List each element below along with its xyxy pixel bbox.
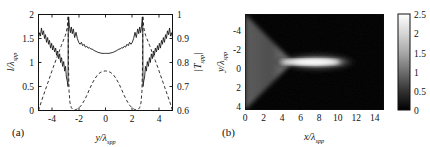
panel-b-svg: -4 -2 0 2 4 0 2 4 6 8 10 12 14 y/λspp x	[215, 0, 430, 147]
ytick-label: -4	[233, 26, 241, 36]
panel-a-svg: 2 1.5 1 0.5 0 1 0.9 0.8 0.7 0.6 -4	[0, 0, 215, 147]
ytick-left-label: 2	[29, 10, 34, 20]
colorbar-tick-label: 2	[414, 29, 419, 39]
panel-b-yaxis: -4 -2 0 2 4	[233, 26, 241, 113]
svg-text:y/λspp: y/λspp	[215, 52, 228, 73]
colorbar-tick-label: 0.5	[414, 87, 426, 97]
xtick-label: 8	[317, 113, 322, 123]
xtick-label: -4	[48, 114, 56, 124]
ylabel-right-tail: |	[192, 52, 203, 55]
panel-a-xlabel: y/λspp	[94, 132, 115, 145]
colorbar-gradient	[398, 14, 410, 110]
ytick-label: 0	[236, 64, 241, 74]
ytick-left-label: 0.5	[22, 82, 34, 92]
svg-text:l/λspp: l/λspp	[5, 53, 18, 72]
ytick-label: 4	[236, 102, 241, 112]
panel-a-curves	[39, 16, 173, 111]
colorbar-tick-label: 2.5	[414, 10, 426, 20]
xtick-label: 10	[333, 113, 343, 123]
ytick-right-label: 0.7	[177, 82, 189, 92]
ytick-right-label: 0.6	[177, 106, 189, 116]
xtick-label: 4	[280, 113, 285, 123]
panel-b-xaxis: 0 2 4 6 8 10 12 14	[243, 113, 380, 123]
xtick-label: 12	[352, 113, 362, 123]
ytick-label: 2	[236, 83, 241, 93]
panel-a-ylabel-left-group: l/λspp	[5, 53, 18, 72]
panel-b-label: (b)	[222, 126, 235, 139]
panel-b-heatmap: -4 -2 0 2 4 0 2 4 6 8 10 12 14 y/λspp x	[215, 0, 430, 147]
ytick-right-label: 1	[177, 10, 182, 20]
panel-a-plot-frame	[39, 15, 173, 111]
xtick-label: 4	[157, 114, 162, 124]
xtick-label: 14	[370, 113, 380, 123]
xtick-label: 2	[261, 113, 266, 123]
ylabel-left-sub: spp	[11, 53, 18, 62]
ytick-left-label: 1.5	[22, 34, 34, 44]
ylabel-right-sub: spp	[198, 55, 205, 64]
xtick-label: 0	[103, 114, 108, 124]
panel-a-line-plot: 2 1.5 1 0.5 0 1 0.9 0.8 0.7 0.6 -4	[0, 0, 215, 147]
heatmap-noise-overlay	[245, 14, 384, 110]
panel-b-ylabel-text: y/λ	[215, 60, 226, 73]
panel-b-ylabel-group: y/λspp	[215, 52, 228, 73]
panel-b-ylabel-sub: spp	[221, 52, 228, 61]
colorbar-tick-label: 1.5	[414, 49, 426, 59]
transmission-dashed-curve	[39, 16, 173, 111]
ytick-left-label: 0	[29, 106, 34, 116]
panel-a-label: (a)	[12, 126, 25, 139]
ytick-left-label: 1	[29, 58, 34, 68]
xtick-label: 6	[298, 113, 303, 123]
xtick-label: 0	[243, 113, 248, 123]
panel-a-ylabel-right-group: |Tspp|	[192, 52, 205, 72]
xtick-label: -2	[75, 114, 83, 124]
panel-b-xlabel: x/λspp	[303, 131, 324, 144]
xtick-label: 2	[130, 114, 135, 124]
colorbar-tick-label: 0	[414, 106, 419, 116]
ytick-right-label: 0.8	[177, 58, 189, 68]
figure-container: 2 1.5 1 0.5 0 1 0.9 0.8 0.7 0.6 -4	[0, 0, 430, 147]
colorbar-tick-label: 1	[414, 68, 419, 78]
ytick-label: -2	[233, 45, 241, 55]
panel-b-image-area	[245, 14, 384, 110]
colorbar: 2.5 2 1.5 1 0.5 0	[398, 10, 426, 115]
ytick-right-label: 0.9	[177, 34, 189, 44]
svg-text:|Tspp|: |Tspp|	[192, 52, 205, 72]
